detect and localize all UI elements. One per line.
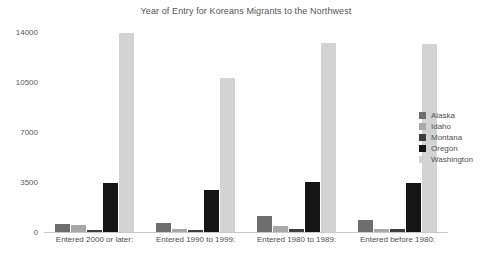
bar-oregon[interactable] xyxy=(305,182,320,232)
legend-label: Idaho xyxy=(431,121,451,132)
bar-group xyxy=(145,32,246,232)
y-tick-label: 10500 xyxy=(16,78,38,87)
y-tick-label: 3500 xyxy=(20,178,38,187)
y-tick-label: 14000 xyxy=(16,28,38,37)
bar-group xyxy=(44,32,145,232)
x-axis-group-label: Entered before 1980: xyxy=(347,235,448,244)
bar-alaska[interactable] xyxy=(358,220,373,232)
y-tick-label: 7000 xyxy=(20,128,38,137)
bar-idaho[interactable] xyxy=(273,226,288,232)
bar-washington[interactable] xyxy=(119,33,134,232)
bar-alaska[interactable] xyxy=(257,216,272,232)
bar-oregon[interactable] xyxy=(406,183,421,232)
legend-label: Washington xyxy=(431,154,473,165)
x-axis-group-label: Entered 1980 to 1989: xyxy=(246,235,347,244)
bar-washington[interactable] xyxy=(321,43,336,232)
legend-swatch-icon xyxy=(419,123,426,130)
x-axis-group-label: Entered 2000 or later: xyxy=(44,235,145,244)
bar-alaska[interactable] xyxy=(156,223,171,232)
legend-item-idaho[interactable]: Idaho xyxy=(419,121,492,132)
chart-container: Year of Entry for Koreans Migrants to th… xyxy=(0,0,492,253)
legend-item-alaska[interactable]: Alaska xyxy=(419,110,492,121)
legend-item-oregon[interactable]: Oregon xyxy=(419,143,492,154)
legend-label: Oregon xyxy=(431,143,458,154)
legend-label: Alaska xyxy=(431,110,455,121)
chart-legend: AlaskaIdahoMontanaOregonWashington xyxy=(419,110,492,165)
legend-swatch-icon xyxy=(419,156,426,163)
x-axis-baseline xyxy=(44,232,448,233)
bar-idaho[interactable] xyxy=(374,229,389,232)
y-tick-label: 0 xyxy=(34,228,38,237)
bar-idaho[interactable] xyxy=(71,225,86,232)
plot-area xyxy=(44,32,448,232)
bar-montana[interactable] xyxy=(289,229,304,232)
x-axis-group-label: Entered 1990 to 1999: xyxy=(145,235,246,244)
legend-item-washington[interactable]: Washington xyxy=(419,154,492,165)
legend-swatch-icon xyxy=(419,145,426,152)
legend-swatch-icon xyxy=(419,134,426,141)
bar-oregon[interactable] xyxy=(204,190,219,232)
bar-montana[interactable] xyxy=(87,230,102,232)
legend-label: Montana xyxy=(431,132,462,143)
bar-washington[interactable] xyxy=(220,78,235,232)
bar-oregon[interactable] xyxy=(103,183,118,232)
bar-idaho[interactable] xyxy=(172,229,187,232)
y-axis: 0350070001050014000 xyxy=(0,0,44,253)
legend-item-montana[interactable]: Montana xyxy=(419,132,492,143)
legend-swatch-icon xyxy=(419,112,426,119)
bar-montana[interactable] xyxy=(188,230,203,232)
bar-alaska[interactable] xyxy=(55,224,70,232)
chart-title: Year of Entry for Koreans Migrants to th… xyxy=(0,6,492,16)
bar-montana[interactable] xyxy=(390,229,405,232)
bar-group xyxy=(246,32,347,232)
